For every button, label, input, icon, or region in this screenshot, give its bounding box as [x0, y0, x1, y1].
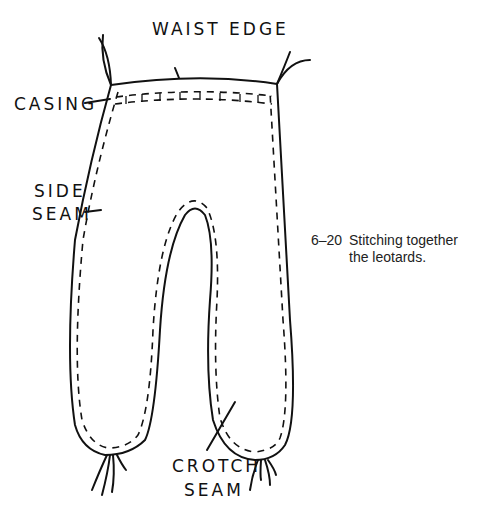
leotard-outline — [70, 78, 293, 460]
diagram-canvas: WAIST EDGE CASING SIDE SEAM CROTCH SEAM … — [0, 0, 498, 515]
side-seam-label-line2: SEAM — [32, 203, 92, 225]
crotch-seam-label-line2: SEAM — [184, 479, 244, 501]
caption-text: Stitching together the leotards. — [349, 232, 479, 266]
side-seam-label-line1: SIDE — [34, 180, 86, 202]
figure-number: 6–20 — [311, 232, 342, 249]
casing-label: CASING — [14, 93, 97, 115]
crotch-seam-label-line1: CROTCH — [172, 455, 261, 477]
figure-caption: 6–20 Stitching together the leotards. — [311, 232, 491, 272]
waist-edge-label: WAIST EDGE — [152, 18, 289, 40]
